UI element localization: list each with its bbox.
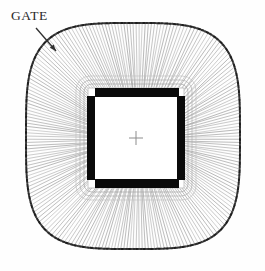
gate-label: GATE [11, 8, 48, 24]
bond-diagram [0, 0, 265, 271]
bond-pad-bottom [95, 179, 179, 188]
bond-pad-top [95, 88, 179, 97]
bond-pad-left [87, 96, 95, 180]
figure-root: GATE [0, 0, 265, 271]
bond-pad-right [177, 96, 185, 180]
